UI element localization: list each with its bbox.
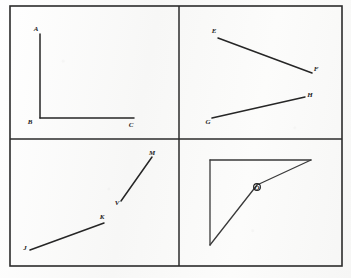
panel-top-right-figure: E F G H	[205, 27, 318, 126]
panel-top-left-figure: A B C	[27, 25, 134, 129]
segment-lower-bend	[210, 185, 257, 245]
point-label-v: V	[115, 199, 121, 207]
geometry-figure-canvas: A B C E F G H J K V M O	[0, 0, 351, 278]
point-label-c: C	[129, 121, 134, 129]
panel-bottom-left-figure: J K V M	[22, 149, 156, 252]
point-label-o: O	[254, 184, 259, 192]
point-label-a: A	[33, 25, 39, 33]
segment-upper-bend	[257, 160, 311, 185]
segment-jk	[30, 223, 104, 250]
point-label-m: M	[148, 149, 156, 157]
panel-bottom-right-figure: O	[210, 160, 311, 245]
segment-vm	[121, 157, 152, 201]
outer-frame	[10, 6, 342, 266]
segment-gh	[212, 97, 305, 118]
segment-ef	[218, 38, 312, 73]
point-label-k: K	[99, 213, 106, 221]
worksheet-page: A B C E F G H J K V M O	[0, 0, 351, 278]
point-label-h: H	[306, 91, 313, 99]
point-label-f: F	[314, 65, 319, 73]
point-label-g: G	[205, 118, 210, 126]
point-label-e: E	[211, 27, 217, 35]
point-label-b: B	[27, 118, 33, 126]
point-label-j: J	[22, 244, 27, 252]
